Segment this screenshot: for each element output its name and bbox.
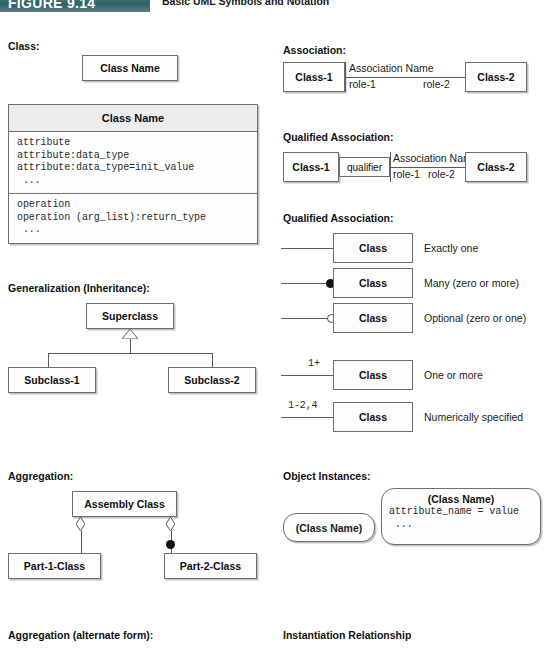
object-instance-simple-box: (Class Name): [283, 513, 375, 542]
section-label-association: Association:: [283, 44, 346, 56]
section-label-generalization: Generalization (Inheritance):: [8, 282, 150, 294]
section-label-qualified-association-2: Qualified Association:: [283, 212, 393, 224]
class-operation-line: ...: [17, 224, 249, 237]
superclass-box: Superclass: [86, 303, 174, 329]
aggregation-diamond-right-icon: [166, 517, 175, 531]
multiplicity-class-box: Class: [333, 233, 413, 263]
class-attribute-line: ...: [17, 175, 249, 188]
class-full-name: Class Name: [9, 105, 257, 132]
class-attribute-line: attribute: [17, 137, 249, 150]
qualified-role-1-label: role-1: [393, 168, 420, 180]
section-label-aggregation-alt: Aggregation (alternate form):: [8, 629, 153, 641]
section-label-class: Class:: [8, 40, 40, 52]
multiplicity-class-label: Class: [359, 312, 387, 324]
class-simple-box: Class Name: [82, 55, 178, 81]
object-instance-detailed-box: (Class Name) attribute_name = value ...: [381, 488, 541, 545]
multiplicity-description: One or more: [424, 369, 483, 381]
qualified-class-2-box: Class-2: [465, 152, 527, 182]
class-attribute-line: attribute:data_type: [17, 150, 249, 163]
association-class-2-box: Class-2: [465, 62, 527, 92]
multiplicity-class-label: Class: [359, 369, 387, 381]
inheritance-triangle-icon: [122, 329, 138, 339]
part-1-class-box: Part-1-Class: [8, 553, 101, 579]
superclass-label: Superclass: [102, 310, 158, 322]
association-class-1-box: Class-1: [283, 62, 345, 92]
generalization-branch-left: [48, 353, 49, 367]
multiplicity-description: Optional (zero or one): [424, 312, 526, 324]
multiplicity-class-box: Class: [333, 360, 413, 390]
class-full-box: Class Name attribute attribute:data_type…: [8, 104, 258, 244]
class-operations-compartment: operation operation (arg_list):return_ty…: [9, 194, 257, 243]
multiplicity-description: Numerically specified: [424, 411, 523, 423]
association-role-1-label: role-1: [349, 78, 376, 90]
qualified-tick-left: [390, 152, 391, 182]
association-class-1-label: Class-1: [295, 71, 332, 83]
object-instance-attribute-line: attribute_name = value: [382, 505, 540, 518]
section-label-object-instances: Object Instances:: [283, 470, 371, 482]
multiplicity-class-box: Class: [333, 402, 413, 432]
generalization-crossbar: [48, 353, 212, 354]
multiplicity-line: [281, 248, 333, 249]
association-tick-left: [345, 62, 346, 92]
multiplicity-description: Exactly one: [424, 242, 478, 254]
object-instance-simple-label: (Class Name): [296, 522, 363, 534]
aggregation-diamond-left-icon: [76, 517, 85, 531]
multiplicity-class-box: Class: [333, 268, 413, 298]
multiplicity-class-label: Class: [359, 242, 387, 254]
multiplicity-many-dot-icon: [166, 540, 175, 549]
multiplicity-line: [281, 318, 329, 319]
association-role-2-label: role-2: [423, 78, 450, 90]
multiplicity-line: [281, 417, 333, 418]
multiplicity-adornment: 1-2,4: [288, 400, 318, 411]
class-operation-line: operation: [17, 199, 249, 212]
qualified-class-1-label: Class-1: [292, 161, 329, 173]
qualified-class-1-box: Class-1: [283, 152, 339, 182]
qualified-class-2-label: Class-2: [477, 161, 514, 173]
qualifier-label: qualifier: [347, 162, 382, 173]
section-label-aggregation: Aggregation:: [8, 470, 73, 482]
multiplicity-description: Many (zero or more): [424, 277, 519, 289]
association-class-2-label: Class-2: [477, 71, 514, 83]
subclass-2-label: Subclass-2: [184, 374, 239, 386]
part-2-class-label: Part-2-Class: [180, 560, 241, 572]
generalization-stem: [130, 339, 131, 353]
subclass-1-box: Subclass-1: [8, 367, 96, 393]
multiplicity-line: [281, 375, 333, 376]
class-simple-name: Class Name: [100, 62, 160, 74]
object-instance-attribute-line: ...: [382, 518, 540, 531]
qualified-role-2-label: role-2: [428, 168, 455, 180]
figure-title: Basic UML Symbols and Notation: [162, 0, 329, 7]
assembly-class-box: Assembly Class: [72, 491, 177, 517]
object-instance-detailed-title: (Class Name): [382, 489, 540, 505]
multiplicity-class-box: Class: [333, 303, 413, 333]
multiplicity-class-label: Class: [359, 411, 387, 423]
subclass-2-box: Subclass-2: [168, 367, 256, 393]
assembly-class-label: Assembly Class: [84, 498, 165, 510]
generalization-branch-right: [212, 353, 213, 367]
qualifier-box: qualifier: [339, 157, 390, 177]
section-label-instantiation: Instantiation Relationship: [283, 629, 411, 641]
part-1-class-label: Part-1-Class: [24, 560, 85, 572]
aggregation-line-left: [81, 531, 82, 553]
part-2-class-box: Part-2-Class: [164, 553, 257, 579]
figure-number: FIGURE 9.14: [8, 0, 148, 12]
multiplicity-adornment: 1+: [308, 358, 320, 369]
association-name-label: Association Name: [349, 62, 434, 74]
multiplicity-class-label: Class: [359, 277, 387, 289]
class-operation-line: operation (arg_list):return_type: [17, 212, 249, 225]
section-label-qualified-association: Qualified Association:: [283, 131, 393, 143]
class-attribute-line: attribute:data_type=init_value: [17, 162, 249, 175]
class-attributes-compartment: attribute attribute:data_type attribute:…: [9, 132, 257, 194]
subclass-1-label: Subclass-1: [24, 374, 79, 386]
